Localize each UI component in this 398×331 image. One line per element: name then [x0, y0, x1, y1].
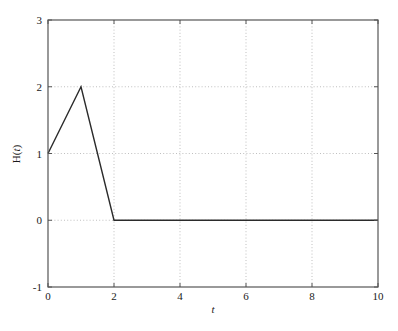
- y-tick-label: 0: [37, 214, 43, 226]
- x-tick-label: 8: [309, 290, 315, 302]
- x-tick-label: 2: [111, 290, 117, 302]
- y-tick-label: 3: [37, 14, 43, 26]
- x-tick-label: 6: [243, 290, 249, 302]
- x-axis-title: t: [211, 303, 215, 315]
- y-tick-label: 1: [37, 148, 43, 160]
- x-tick-labels: 0246810: [45, 290, 384, 302]
- y-axis-title: H(t): [10, 144, 23, 163]
- chart-figure: 0246810 -10123 t H(t): [0, 0, 398, 331]
- x-tick-label: 0: [45, 290, 51, 302]
- y-tick-label: -1: [33, 281, 42, 293]
- line-chart: 0246810 -10123 t H(t): [0, 0, 398, 331]
- y-tick-label: 2: [37, 81, 43, 93]
- x-tick-label: 10: [373, 290, 385, 302]
- y-axis-title-text: H(t): [10, 144, 23, 163]
- x-tick-label: 4: [177, 290, 183, 302]
- y-tick-labels: -10123: [33, 14, 43, 293]
